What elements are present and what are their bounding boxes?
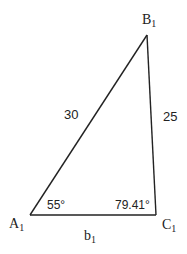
side-b1-c1 [147,35,156,215]
angle-label-a1: 55° [47,198,65,212]
triangle-diagram: B1 A1 C1 30 25 b1 55° 79.41° [0,0,187,254]
angle-label-c1: 79.41° [115,198,150,212]
side-label-a1-c1: b1 [84,228,96,245]
vertex-label-a1: A1 [9,216,24,233]
side-a1-b1 [30,35,147,215]
vertex-label-c1: C1 [162,217,176,234]
vertex-label-b1: B1 [142,12,156,29]
side-label-a1-b1: 30 [64,107,78,122]
side-label-b1-c1: 25 [163,109,177,124]
